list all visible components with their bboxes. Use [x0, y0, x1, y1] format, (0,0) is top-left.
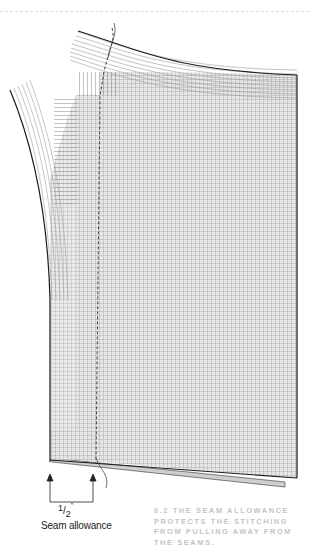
- measurement-bracket: [47, 474, 96, 502]
- top-edge-outline: [78, 31, 297, 75]
- arrow-up-icon: [90, 474, 96, 481]
- thread-tail-top: [108, 23, 115, 58]
- fabric-panel: [50, 72, 297, 478]
- fraction-denominator: 2: [66, 509, 71, 519]
- left-edge-outline: [10, 90, 50, 462]
- measurement-value: 1/2": [58, 505, 73, 516]
- arrow-up-icon: [47, 474, 53, 481]
- seam-allowance-diagram: [0, 0, 309, 559]
- horizontal-threads: [54, 96, 78, 206]
- vertical-threads: [76, 72, 116, 96]
- fraction-numerator: 1: [58, 503, 63, 513]
- seam-allowance-label: Seam allowance: [41, 520, 112, 531]
- thread-tail-bottom: [96, 458, 107, 488]
- inch-mark: ": [71, 502, 74, 509]
- figure-caption: 6.2 The seam allowance protects the stit…: [154, 506, 304, 548]
